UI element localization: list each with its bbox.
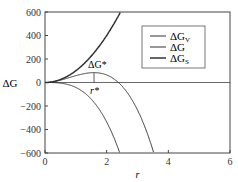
- curve-dgs: [45, 13, 120, 83]
- x-axis-label: r: [136, 169, 140, 180]
- chart: 6004002000−200−400−6000246rΔGΔG*r*ΔGVΔGΔ…: [0, 0, 238, 182]
- y-tick-label: 400: [26, 30, 41, 41]
- y-tick-label: 600: [26, 7, 41, 18]
- y-tick-label: −200: [20, 101, 41, 112]
- curve-dg: [45, 73, 154, 153]
- rstar-annotation: r*: [90, 85, 99, 96]
- x-tick-label: 0: [43, 156, 48, 167]
- peak-annotation: ΔG*: [88, 59, 107, 70]
- y-tick-label: 200: [26, 54, 41, 65]
- y-tick-label: −400: [20, 124, 41, 135]
- x-tick-label: 4: [166, 156, 171, 167]
- curve-dgv: [45, 83, 120, 153]
- y-tick-label: −600: [20, 148, 41, 159]
- y-tick-label: 0: [36, 77, 41, 88]
- x-tick-label: 2: [104, 156, 109, 167]
- x-tick-label: 6: [228, 156, 233, 167]
- y-axis-label: ΔG: [2, 77, 17, 89]
